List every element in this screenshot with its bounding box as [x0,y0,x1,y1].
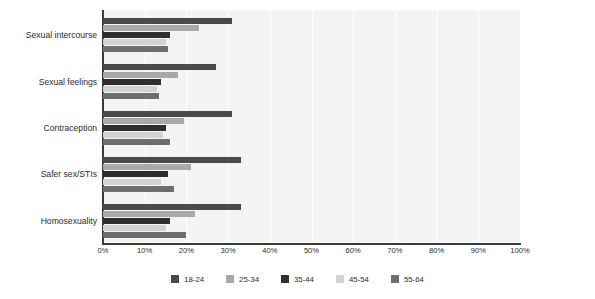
legend-label: 45-54 [349,275,369,284]
category-label: Sexual feelings [0,77,97,87]
legend-swatch-icon [171,275,179,283]
bar [103,125,166,131]
legend-swatch-icon [391,275,399,283]
bar [103,64,216,70]
legend-swatch-icon [226,275,234,283]
x-tick-label: 30% [220,246,235,255]
bars-layer [103,10,520,242]
bar [103,211,195,217]
bar [103,204,241,210]
gridline [520,10,521,242]
legend-label: 35-44 [294,275,314,284]
bar [103,18,232,24]
bar [103,79,161,85]
bar [103,157,241,163]
x-tick-label: 70% [387,246,402,255]
legend-swatch-icon [336,275,344,283]
legend-label: 25-34 [239,275,259,284]
y-axis-category-labels: Sexual intercourseSexual feelingsContrac… [0,10,97,242]
category-label: Sexual intercourse [0,30,97,40]
legend-label: 18-24 [184,275,204,284]
x-tick-label: 100% [510,246,529,255]
bar [103,164,191,170]
x-axis-tick-labels: 0%10%20%30%40%50%60%70%80%90%100% [0,246,595,260]
bar [103,139,170,145]
category-label: Homosexuality [0,216,97,226]
chart-legend: 18-2425-3435-4445-5455-64 [0,271,595,287]
bar [103,179,161,185]
bar [103,218,170,224]
legend-item[interactable]: 35-44 [281,275,314,284]
category-label: Safer sex/STIs [0,169,97,179]
bar [103,225,166,231]
bar [103,25,199,31]
bar [103,46,168,52]
legend-label: 55-64 [404,275,424,284]
bar [103,111,232,117]
grouped-bar-chart: Sexual intercourseSexual feelingsContrac… [0,0,595,299]
x-axis-line [102,243,521,245]
bar [103,93,159,99]
x-tick-label: 20% [179,246,194,255]
x-tick-label: 40% [262,246,277,255]
bar [103,186,174,192]
bar [103,118,184,124]
bar [103,32,170,38]
legend-item[interactable]: 25-34 [226,275,259,284]
bar [103,171,168,177]
x-tick-label: 10% [137,246,152,255]
legend-swatch-icon [281,275,289,283]
legend-item[interactable]: 18-24 [171,275,204,284]
x-tick-label: 50% [304,246,319,255]
bar [103,232,186,238]
bar [103,72,178,78]
legend-item[interactable]: 55-64 [391,275,424,284]
bar [103,39,166,45]
bar [103,86,157,92]
x-tick-label: 90% [471,246,486,255]
bar [103,132,163,138]
x-tick-label: 80% [429,246,444,255]
x-tick-label: 0% [98,246,109,255]
legend-item[interactable]: 45-54 [336,275,369,284]
category-label: Contraception [0,123,97,133]
x-tick-label: 60% [346,246,361,255]
